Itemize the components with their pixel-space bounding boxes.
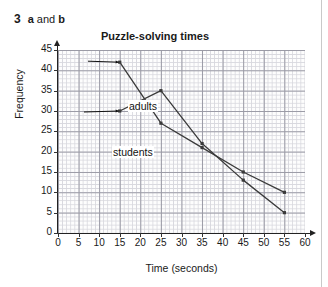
data-point-adults [159,122,162,125]
data-point-adults [200,146,203,149]
x-axis-line [57,233,311,234]
question-heading: 3a and b [14,12,65,26]
y-tick-label: 5 [30,206,52,217]
y-tick-label: 30 [30,104,52,115]
series-line-adults [120,62,285,192]
data-point-students [283,211,286,214]
y-tick-label: 45 [30,43,52,54]
y-tick-label: 40 [30,63,52,74]
chart-series-layer [58,50,305,233]
x-tick-label: 60 [292,237,318,248]
y-tick [54,233,58,234]
leader-line-adults [88,61,119,62]
data-point-adults [242,170,245,173]
y-tick-label: 0 [30,226,52,237]
page-edge-rule [321,0,322,287]
leader-line-students [84,111,119,112]
data-point-students [200,142,203,145]
y-axis-title: Frequency [13,39,25,149]
data-point-students [159,89,162,92]
y-tick-label: 15 [30,165,52,176]
y-tick-label: 35 [30,84,52,95]
data-point-adults [283,191,286,194]
chart-plot-area: 051015202530354045505560 051015202530354… [58,50,305,233]
y-tick-label: 10 [30,185,52,196]
question-number: 3 [14,12,21,26]
chart-title: Puzzle-solving times [0,30,310,42]
data-point-students [242,179,245,182]
annotation-adults: adults [128,100,158,112]
x-axis-title: Time (seconds) [58,262,305,274]
y-tick-label: 20 [30,145,52,156]
question-conjunction: and [34,13,58,25]
annotation-students: students [112,146,154,158]
y-tick-label: 25 [30,124,52,135]
question-part-b: b [58,13,65,25]
